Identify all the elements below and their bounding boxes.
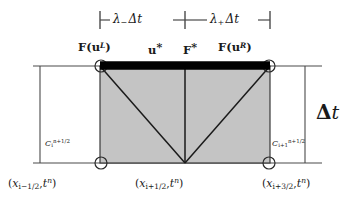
top-interface-bar-overlay bbox=[100, 62, 270, 70]
lambda-plus-symbol: λ bbox=[210, 12, 218, 26]
cell-right-subscript: i+1 bbox=[278, 142, 288, 148]
lambda-minus-dt: Δt bbox=[129, 12, 143, 26]
delta-t-t: t bbox=[332, 101, 340, 123]
cell-average-label-right: Ci+1n+1/2 bbox=[272, 139, 305, 149]
cell-left-superscript: n+1/2 bbox=[53, 138, 70, 144]
coordinate-label-right: (xi+3/2,tn) bbox=[262, 177, 310, 191]
f-star-var: F bbox=[183, 43, 191, 57]
coordinate-label-left: (xi−1/2,tn) bbox=[8, 177, 56, 191]
delta-t-delta: Δ bbox=[316, 100, 332, 124]
ruler-label-lambda-plus: λ+ Δt bbox=[210, 13, 239, 27]
f-star-asterisk: * bbox=[191, 41, 197, 54]
riemann-control-volume-figure: λ− Δt λ+ Δt F(uL) u* F* F(uR) Δt Cin+1/2… bbox=[0, 0, 355, 202]
lambda-minus-symbol: λ bbox=[113, 12, 121, 26]
ruler-label-lambda-minus: λ− Δt bbox=[113, 13, 142, 27]
delta-t-label: Δt bbox=[316, 102, 339, 122]
flux-label-left: F(uL) bbox=[78, 42, 111, 54]
u-star-asterisk: * bbox=[156, 41, 162, 54]
state-label-u-star: u* bbox=[148, 42, 162, 57]
diagram-canvas bbox=[0, 0, 355, 202]
coord-right-paren-close: ) bbox=[306, 177, 310, 190]
flux-label-right: F(uR) bbox=[218, 42, 252, 54]
coord-center-paren-close: ) bbox=[179, 177, 183, 190]
lambda-plus-subscript: + bbox=[218, 18, 225, 27]
coord-right-subscript: i+3/2 bbox=[273, 182, 294, 191]
coord-center-subscript: i+1/2 bbox=[146, 182, 167, 191]
flux-label-f-star: F* bbox=[183, 42, 197, 57]
flux-left-paren-close: ) bbox=[105, 40, 110, 54]
flux-right-F: F bbox=[218, 40, 226, 54]
coord-left-paren-close: ) bbox=[52, 177, 56, 190]
lambda-plus-dt: Δt bbox=[226, 12, 240, 26]
cell-average-label-left: Cin+1/2 bbox=[45, 139, 70, 149]
coord-left-subscript: i−1/2 bbox=[19, 182, 40, 191]
flux-left-u: u bbox=[92, 40, 100, 54]
flux-left-F: F bbox=[78, 40, 86, 54]
cell-right-superscript: n+1/2 bbox=[288, 138, 305, 144]
lambda-minus-subscript: − bbox=[121, 18, 128, 27]
coordinate-label-center: (xi+1/2,tn) bbox=[135, 177, 183, 191]
flux-right-paren-close: ) bbox=[246, 40, 251, 54]
flux-right-u: u bbox=[232, 40, 240, 54]
